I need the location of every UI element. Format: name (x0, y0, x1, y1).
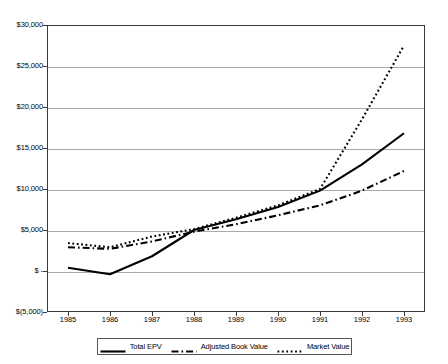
x-axis-tick-mark (110, 312, 111, 316)
x-axis-tick-label: 1992 (342, 316, 382, 324)
series-line-total-epv (68, 133, 404, 274)
x-axis-tick-mark (362, 312, 363, 316)
data-series-layer (47, 25, 425, 312)
legend-item: Adjusted Book Value (171, 342, 268, 351)
x-axis-tick-mark (194, 312, 195, 316)
legend-item: Market Value (277, 342, 349, 351)
legend-item-label: Adjusted Book Value (201, 343, 268, 351)
series-line-market-value (68, 46, 404, 248)
x-axis-tick-label: 1991 (300, 316, 340, 324)
legend-item-label: Total EPV (130, 343, 162, 351)
legend-item-label: Market Value (307, 343, 349, 351)
legend-key-swatch (277, 342, 303, 351)
x-axis-tick-label: 1985 (48, 316, 88, 324)
x-axis-tick-mark (404, 312, 405, 316)
x-axis-tick-label: 1987 (132, 316, 172, 324)
legend-item: Total EPV (100, 342, 162, 351)
x-axis-tick-mark (68, 312, 69, 316)
legend-key-swatch (171, 342, 197, 351)
x-axis-tick-label: 1989 (216, 316, 256, 324)
legend-key-swatch (100, 342, 126, 351)
x-axis-tick-label: 1988 (174, 316, 214, 324)
x-axis-tick-mark (320, 312, 321, 316)
chart-legend: Total EPVAdjusted Book ValueMarket Value (97, 338, 352, 355)
x-axis-tick-label: 1986 (90, 316, 130, 324)
line-chart: $30,000$25,000$20,000$15,000$10,000$5,00… (0, 0, 448, 364)
x-axis-tick-mark (152, 312, 153, 316)
x-axis-tick-mark (236, 312, 237, 316)
x-axis-tick-mark (278, 312, 279, 316)
x-axis-tick-label: 1993 (384, 316, 424, 324)
series-line-adjusted-book-value (68, 171, 404, 249)
x-axis-tick-label: 1990 (258, 316, 298, 324)
